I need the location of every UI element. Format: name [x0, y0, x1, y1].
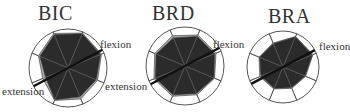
panel-title: BIC — [38, 2, 73, 25]
extension-label: extension — [2, 85, 44, 97]
extension-label: extension — [105, 80, 147, 92]
panel-title: BRA — [268, 5, 311, 28]
flexion-label: flexion — [319, 40, 350, 52]
radar-panel-bra: BRA flexion — [230, 0, 346, 112]
panel-title: BRD — [152, 2, 195, 25]
radar-panel-brd: BRD flexion extension — [110, 0, 230, 112]
radar-panel-bic: BIC flexion extension — [0, 0, 120, 112]
radar-chart — [246, 30, 320, 104]
